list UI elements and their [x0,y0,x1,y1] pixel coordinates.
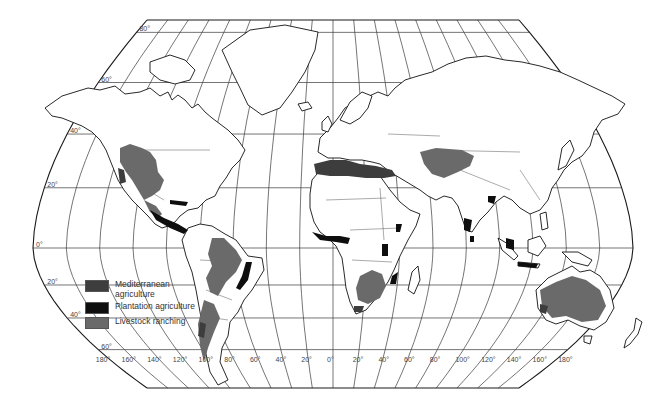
longitude-label: 160° [533,356,548,363]
longitude-label: 120° [481,356,496,363]
longitude-label: 140° [507,356,522,363]
longitude-label: 180° [96,356,111,363]
latitude-label: 60° [101,76,112,83]
legend-item-mediterranean: Mediterranean agriculture [85,279,195,299]
legend-swatch-ranching [85,317,109,329]
iceland [298,102,312,111]
philippines [540,212,548,230]
latitude-label: 80° [139,25,150,32]
madagascar [408,266,420,294]
legend-label: Livestock ranching [115,316,195,326]
world-map: 80°60°40°20°0°20°40°60°180°160°140°120°1… [0,0,655,410]
legend: Mediterranean agriculture Plantation agr… [85,279,195,331]
latitude-label: 20° [47,278,58,285]
longitude-label: 160° [121,356,136,363]
longitude-label: 60° [250,356,261,363]
latitude-label: 0° [36,241,43,248]
longitude-label: 40° [378,356,389,363]
longitude-label: 140° [147,356,162,363]
new-zealand [624,318,642,348]
longitude-label: 100° [199,356,214,363]
plant-malaysia [506,238,514,250]
latitude-label: 60° [101,343,112,350]
longitude-label: 20° [353,356,364,363]
plant-sri-lanka [470,236,474,242]
borneo [528,236,546,256]
greenland [222,25,318,115]
longitude-label: 80° [224,356,235,363]
latitude-label: 40° [70,127,81,134]
longitude-label: 100° [455,356,470,363]
map-frame-edge [33,20,147,388]
longitude-label: 80° [430,356,441,363]
legend-label: Plantation agriculture [115,301,195,311]
longitude-label: 20° [301,356,312,363]
longitude-label: 180° [558,356,573,363]
legend-swatch-mediterranean [85,280,109,292]
legend-item-plantation: Plantation agriculture [85,301,195,314]
longitude-label: 120° [173,356,188,363]
longitude-label: 40° [276,356,287,363]
canadian-arctic-islands [150,55,195,84]
latitude-label: 20° [47,181,58,188]
new-guinea [562,252,592,266]
plant-east-africa [382,244,388,256]
legend-item-ranching: Livestock ranching [85,316,195,329]
longitude-label: 0° [327,356,334,363]
legend-swatch-plantation [85,302,109,314]
legend-label: Mediterranean agriculture [115,279,195,299]
longitude-label: 60° [404,356,415,363]
continents [45,25,642,385]
tasmania [584,336,592,344]
latitude-label: 40° [70,311,81,318]
